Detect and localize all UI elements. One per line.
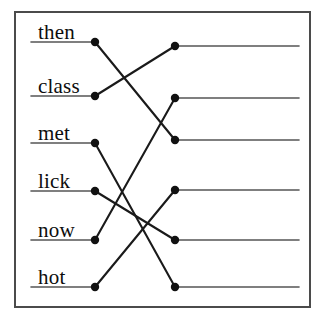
right-endpoint-R1[interactable]: [171, 42, 179, 50]
connection-now-to-R2[interactable]: [95, 98, 175, 240]
left-endpoint-hot[interactable]: [91, 283, 99, 291]
word-label-hot: hot: [38, 267, 65, 288]
word-label-now: now: [38, 220, 75, 241]
word-label-then: then: [38, 22, 75, 43]
right-endpoint-R5[interactable]: [171, 236, 179, 244]
left-endpoint-then[interactable]: [91, 38, 99, 46]
connection-then-to-R3[interactable]: [95, 42, 175, 140]
right-endpoint-R3[interactable]: [171, 136, 179, 144]
matching-figure: thenclassmetlicknowhot: [0, 0, 325, 321]
word-label-lick: lick: [38, 171, 70, 192]
connection-line-group: [95, 42, 175, 287]
connection-hot-to-R4[interactable]: [95, 190, 175, 287]
right-endpoint-R6[interactable]: [171, 283, 179, 291]
left-endpoint-met[interactable]: [91, 139, 99, 147]
connection-lick-to-R5[interactable]: [95, 191, 175, 240]
word-label-met: met: [38, 123, 70, 144]
word-label-class: class: [38, 76, 80, 97]
right-endpoint-R4[interactable]: [171, 186, 179, 194]
left-endpoint-lick[interactable]: [91, 187, 99, 195]
left-endpoint-now[interactable]: [91, 236, 99, 244]
right-dot-group: [171, 42, 179, 291]
left-dot-group: [91, 38, 99, 291]
connection-class-to-R1[interactable]: [95, 46, 175, 96]
right-rule-group: [175, 46, 299, 287]
right-endpoint-R2[interactable]: [171, 94, 179, 102]
left-endpoint-class[interactable]: [91, 92, 99, 100]
